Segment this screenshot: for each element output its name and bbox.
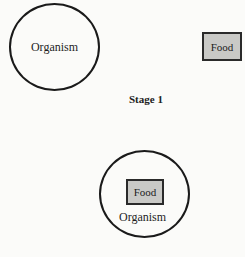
stage-caption: Stage 1 bbox=[129, 93, 163, 105]
organism-label-stage1: Organism bbox=[31, 40, 78, 55]
organism-label-stage2-text: Organism bbox=[119, 210, 166, 224]
organism-label-stage2: Organism bbox=[119, 210, 166, 225]
food-box-stage1: Food bbox=[202, 32, 242, 61]
stage-caption-text: Stage 1 bbox=[129, 93, 163, 105]
food-label-stage2: Food bbox=[134, 186, 157, 198]
food-box-stage2: Food bbox=[126, 179, 164, 205]
organism-circle-stage1: Organism bbox=[9, 3, 100, 91]
food-label-stage1: Food bbox=[211, 41, 234, 53]
